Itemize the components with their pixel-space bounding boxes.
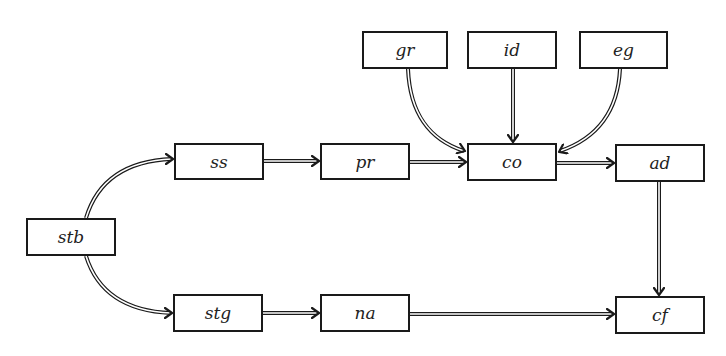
node-label: gr — [395, 40, 414, 60]
node-eg: eg — [579, 31, 668, 69]
node-cf: cf — [615, 296, 705, 334]
node-ss: ss — [174, 143, 264, 180]
node-id: id — [467, 31, 557, 69]
node-label: na — [354, 303, 375, 323]
node-label: eg — [613, 40, 634, 60]
node-label: co — [502, 152, 522, 172]
node-ad: ad — [615, 144, 705, 182]
node-stb: stb — [26, 218, 116, 256]
node-label: cf — [652, 305, 668, 325]
node-label: pr — [355, 152, 374, 172]
edge-stb-stg — [86, 256, 172, 313]
diagram-canvas: stb ss pr co ad gr id eg stg na cf — [0, 0, 726, 356]
node-stg: stg — [173, 294, 263, 332]
node-gr: gr — [362, 31, 448, 69]
node-label: ss — [210, 152, 227, 172]
node-na: na — [320, 294, 410, 332]
node-pr: pr — [320, 143, 410, 180]
edge-stb-ss — [86, 159, 173, 218]
node-label: stg — [205, 303, 231, 323]
node-co: co — [467, 143, 557, 181]
edge-eg-co — [559, 69, 620, 152]
node-label: stb — [58, 227, 84, 247]
node-label: ad — [649, 153, 670, 173]
edge-gr-co — [408, 69, 465, 151]
node-label: id — [504, 40, 520, 60]
